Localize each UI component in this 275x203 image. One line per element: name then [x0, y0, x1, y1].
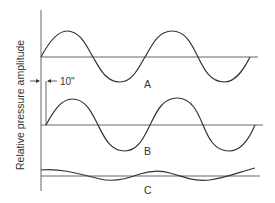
- arrowhead-left-icon: [47, 79, 51, 83]
- arrowhead-right-icon: [36, 79, 40, 83]
- wave-c: [41, 168, 255, 180]
- wave-a-label: A: [144, 78, 151, 90]
- wave-c-label: C: [144, 184, 152, 196]
- wave-b-label: B: [144, 145, 151, 157]
- offset-label: 10": [60, 76, 75, 87]
- y-axis-label: Relative pressure amplitude: [14, 40, 26, 170]
- waveform-diagram: [0, 0, 275, 203]
